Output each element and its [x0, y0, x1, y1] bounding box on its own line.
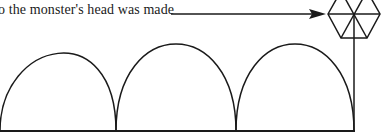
monster-diagram: [0, 0, 382, 132]
pointer-arrow: [171, 9, 326, 19]
arc-3: [236, 44, 354, 131]
arc-2: [116, 44, 236, 131]
arc-1: [0, 53, 116, 131]
